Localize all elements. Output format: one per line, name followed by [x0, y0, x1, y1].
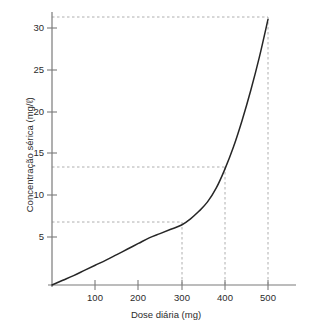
x-axis-label: Dose diária (mg): [56, 310, 276, 320]
x-tick-label-400: 400: [212, 293, 238, 303]
chart-container: 30 25 20 15 10 5 100 200 300 400 500 Con…: [0, 0, 311, 331]
x-tick-label-500: 500: [255, 293, 281, 303]
x-tick-label-300: 300: [169, 293, 195, 303]
data-series-curve: [52, 19, 268, 285]
chart-plot-area: [0, 0, 311, 331]
guide-lines-vertical: [182, 17, 268, 285]
x-tick-label-200: 200: [125, 293, 151, 303]
guide-lines-horizontal: [52, 17, 268, 222]
y-axis-label: Concentração sérica (mg/ℓ): [25, 70, 35, 240]
y-tick-label-30: 30: [22, 23, 44, 33]
x-tick-label-100: 100: [82, 293, 108, 303]
